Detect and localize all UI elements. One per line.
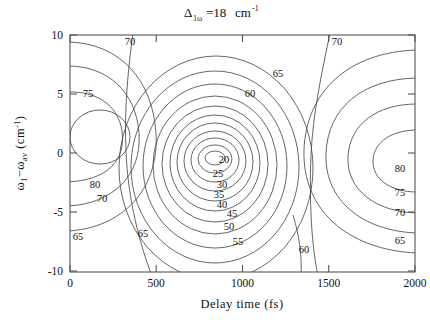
y-axis-title: ω1−ωav (cm-1) xyxy=(13,116,29,191)
contour-label: 65 xyxy=(73,231,84,242)
y-axis-subav: av xyxy=(20,152,29,161)
contour-label: 60 xyxy=(245,88,256,99)
x-tick-label: 1500 xyxy=(317,277,340,289)
chart-title-units: cm xyxy=(235,5,251,20)
svg-text:ω1−ωav (cm-1): ω1−ωav (cm-1) xyxy=(13,116,29,191)
contour-plot-svg: Δ 1ω =18 cm -1 0 500 1000 1500 xyxy=(0,0,430,320)
contour-chart-figure: Δ 1ω =18 cm -1 0 500 1000 1500 xyxy=(0,0,430,320)
contour-label: 80 xyxy=(395,163,406,174)
contour-level-70-right-branch xyxy=(310,33,330,276)
contour-label: 50 xyxy=(224,221,235,232)
y-tick-label: -5 xyxy=(53,206,63,218)
contour-level-65-right xyxy=(304,50,417,253)
x-tick-label: 1000 xyxy=(231,277,254,289)
chart-title-delta: Δ xyxy=(184,5,192,20)
contour-label: 55 xyxy=(233,236,244,247)
contour-level-65-left xyxy=(68,42,156,231)
y-axis-omega1: ω xyxy=(13,182,27,191)
contour-level-75-right xyxy=(348,104,417,213)
chart-title-subscript: 1ω xyxy=(193,14,202,23)
x-tick-label: 0 xyxy=(67,277,73,289)
contour-label: 65 xyxy=(138,228,149,239)
y-tick-label: -10 xyxy=(48,265,64,277)
contour-level-60-inner xyxy=(143,84,287,248)
contour-level-75-left xyxy=(68,92,123,182)
x-tick-label: 500 xyxy=(148,277,166,289)
y-tick-label: 0 xyxy=(57,147,63,159)
chart-title-value: =18 xyxy=(206,5,226,20)
contour-label: 75 xyxy=(83,88,94,99)
contour-labels: 70 70 75 65 60 80 80 75 70 70 65 65 20 2… xyxy=(73,36,406,255)
contour-level-80-left xyxy=(70,110,130,164)
y-tick-label: 10 xyxy=(52,29,64,41)
contour-label: 75 xyxy=(395,187,406,198)
contour-label: 40 xyxy=(217,199,228,210)
contour-level-80-right xyxy=(373,130,417,192)
contour-label: 70 xyxy=(332,36,343,47)
contour-label: 80 xyxy=(90,179,101,190)
contour-level-70-left-branch xyxy=(125,33,152,276)
chart-title-units-exponent: -1 xyxy=(252,4,259,13)
y-axis-units-exp: -1 xyxy=(13,120,22,128)
y-axis-minus: −ω xyxy=(13,161,27,177)
x-axis-title: Delay time (fs) xyxy=(200,297,283,311)
y-tick-label: 5 xyxy=(57,88,63,100)
contour-label: 20 xyxy=(219,154,230,165)
contour-label: 70 xyxy=(97,193,108,204)
contour-label: 65 xyxy=(273,68,284,79)
y-axis-units-close: ) xyxy=(13,116,27,121)
contour-label: 70 xyxy=(395,207,406,218)
contour-label: 65 xyxy=(395,235,406,246)
x-tick-label: 2000 xyxy=(404,277,427,289)
y-axis-units: (cm xyxy=(13,128,27,153)
contour-label: 25 xyxy=(213,168,224,179)
contour-label: 70 xyxy=(125,36,136,47)
y-axis-tick-labels: 10 5 0 -5 -10 xyxy=(48,29,64,277)
contour-label: 45 xyxy=(227,208,238,219)
x-axis-tick-labels: 0 500 1000 1500 2000 xyxy=(67,277,427,289)
contour-label: 60 xyxy=(299,244,310,255)
chart-title: Δ 1ω =18 cm -1 xyxy=(184,4,259,23)
